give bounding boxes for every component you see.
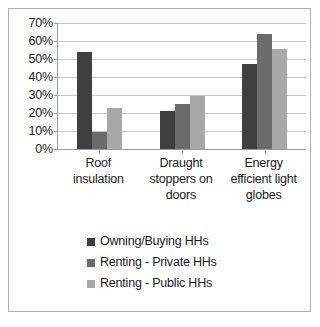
x-axis-category-label: Draughtstoppers ondoors xyxy=(140,155,223,203)
y-axis-tick xyxy=(54,59,58,60)
y-axis-tick xyxy=(54,149,58,150)
x-axis-category-label-line: insulation xyxy=(57,171,140,187)
y-axis-tick xyxy=(54,41,58,42)
chart-container: 70%60%50%40%30%20%10%0% RoofinsulationDr… xyxy=(8,8,311,312)
x-axis-tick xyxy=(182,149,183,154)
bar xyxy=(242,64,257,149)
y-axis-tick-label: 10% xyxy=(29,125,53,138)
bar xyxy=(77,52,92,149)
x-axis-category-label-line: stoppers on xyxy=(140,171,223,187)
legend-label: Owning/Buying HHs xyxy=(100,235,208,248)
y-axis-tick-label: 30% xyxy=(29,89,53,102)
legend-item[interactable]: Renting - Private HHs xyxy=(9,252,312,273)
x-axis-category-label-line: globes xyxy=(222,187,305,203)
y-axis-tick-label: 50% xyxy=(29,53,53,66)
y-axis-labels: 70%60%50%40%30%20%10%0% xyxy=(9,9,57,149)
legend-label: Renting - Private HHs xyxy=(100,256,217,269)
y-axis-tick-label: 70% xyxy=(29,17,53,30)
bar xyxy=(160,111,175,149)
bar xyxy=(272,49,287,149)
legend-item[interactable]: Renting - Public HHs xyxy=(9,273,312,294)
x-axis-category-label: Energyefficient lightglobes xyxy=(222,155,305,203)
x-axis-tick xyxy=(99,149,100,154)
y-axis-tick-label: 40% xyxy=(29,71,53,84)
x-axis-category-label: Roofinsulation xyxy=(57,155,140,187)
legend-swatch-icon xyxy=(87,238,95,246)
y-axis-tick xyxy=(54,23,58,24)
plot-area xyxy=(57,23,306,150)
y-axis-tick-label: 20% xyxy=(29,107,53,120)
x-axis-category-label-line: Energy xyxy=(222,155,305,171)
bar xyxy=(92,132,107,149)
x-axis-category-label-line: Draught xyxy=(140,155,223,171)
legend-label: Renting - Public HHs xyxy=(100,277,212,290)
y-axis-tick xyxy=(54,95,58,96)
bar xyxy=(257,34,272,149)
x-axis-category-label-line: Roof xyxy=(57,155,140,171)
bar xyxy=(190,96,205,149)
y-axis-tick xyxy=(54,77,58,78)
gridline xyxy=(58,23,306,24)
legend-swatch-icon xyxy=(87,280,95,288)
y-axis-tick xyxy=(54,131,58,132)
legend-swatch-icon xyxy=(87,259,95,267)
bar xyxy=(107,108,122,149)
bar xyxy=(175,104,190,149)
y-axis-tick xyxy=(54,113,58,114)
y-axis-tick-label: 60% xyxy=(29,35,53,48)
x-axis-category-label-line: efficient light xyxy=(222,171,305,187)
chart-legend: Owning/Buying HHsRenting - Private HHsRe… xyxy=(9,231,312,294)
x-axis-tick xyxy=(265,149,266,154)
plot-wrapper: 70%60%50%40%30%20%10%0% RoofinsulationDr… xyxy=(9,9,312,224)
x-axis-category-labels: RoofinsulationDraughtstoppers ondoorsEne… xyxy=(57,155,305,221)
x-axis-category-label-line: doors xyxy=(140,187,223,203)
legend-item[interactable]: Owning/Buying HHs xyxy=(9,231,312,252)
y-axis-tick-label: 0% xyxy=(35,143,53,156)
